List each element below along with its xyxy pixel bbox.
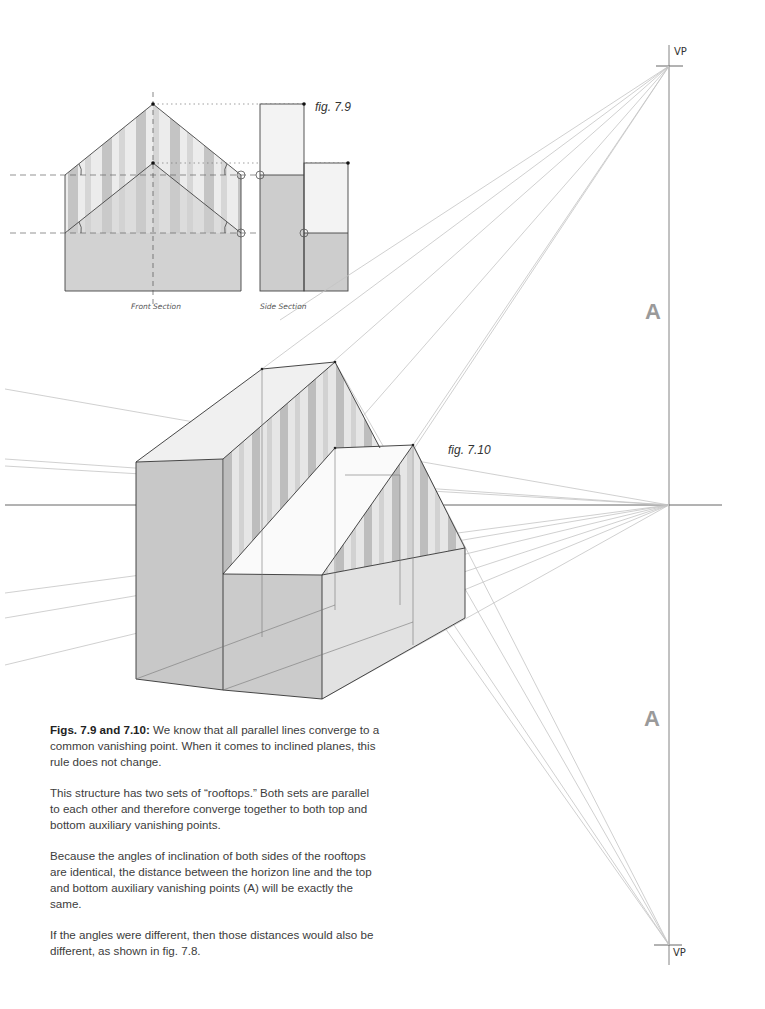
caption-paragraph-1: Figs. 7.9 and 7.10: We know that all par… (50, 722, 380, 770)
aux-top-a-label: A (645, 299, 661, 325)
caption-paragraph-3: Because the angles of inclination of bot… (50, 848, 380, 912)
side-section-drawing (256, 102, 350, 291)
caption-text: Figs. 7.9 and 7.10: We know that all par… (50, 722, 380, 974)
aux-bottom-a-label: A (644, 706, 660, 732)
side-section-label: Side Section (260, 302, 306, 311)
fig-7-10-label: fig. 7.10 (448, 443, 491, 457)
front-section-label: Front Section (131, 302, 181, 311)
bottom-vp-label: VP (673, 947, 686, 958)
fig-7-9-label: fig. 7.9 (315, 100, 351, 114)
caption-lead: Figs. 7.9 and 7.10: (50, 723, 150, 736)
top-vp-label: VP (674, 46, 687, 57)
caption-paragraph-2: This structure has two sets of “rooftops… (50, 785, 380, 833)
caption-paragraph-4: If the angles were different, then those… (50, 927, 380, 959)
house-3d-drawing (136, 361, 465, 699)
